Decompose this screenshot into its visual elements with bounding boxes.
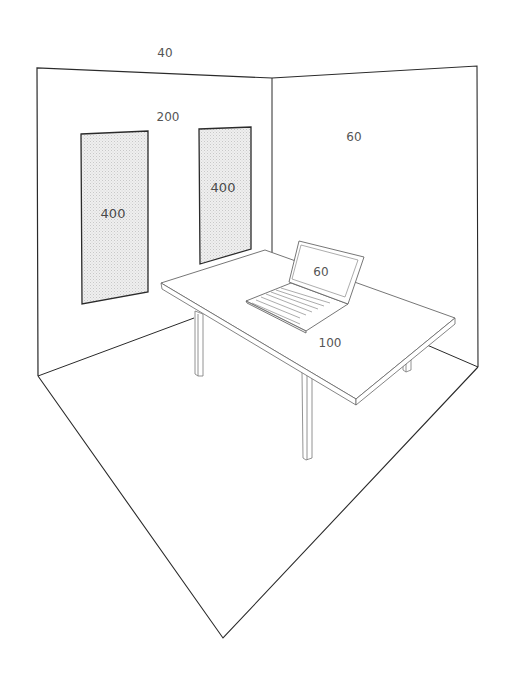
right-wall-label: 60 [346,131,361,143]
window-right [199,127,251,264]
left-wall-label: 200 [157,111,180,123]
window-left-label: 400 [101,207,126,220]
ceiling-label: 40 [157,47,172,59]
window-right-label: 400 [211,181,236,194]
desk-surface-label: 100 [319,337,342,349]
laptop-screen-label: 60 [313,266,328,278]
room-diagram [0,0,517,676]
